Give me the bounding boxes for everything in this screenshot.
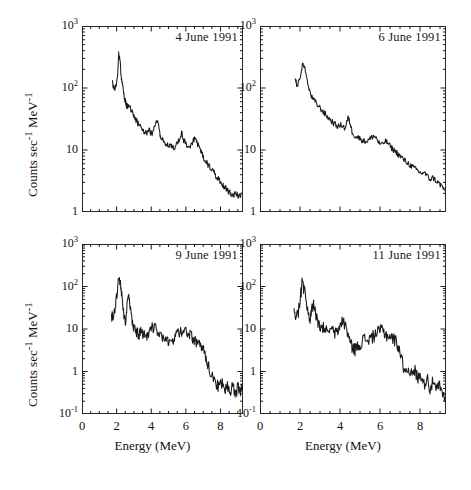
gamma-ray-spectra-figure: 4 June 1991110102103Counts sec-1 MeV-16 … — [0, 0, 471, 490]
spectrum-curve — [82, 244, 243, 414]
y-tick-label: 103 — [224, 18, 256, 33]
y-tick-label: 102 — [46, 80, 78, 95]
y-tick-label: 10 — [46, 142, 78, 157]
x-tick-label: 2 — [109, 419, 125, 434]
y-tick-label: 1 — [224, 364, 256, 379]
spectrum-curve — [260, 26, 446, 212]
x-tick-label: 2 — [292, 419, 308, 434]
panel-11-june: 11 June 1991 — [260, 244, 446, 414]
x-tick-label: 8 — [212, 419, 228, 434]
x-tick-label: 6 — [178, 419, 194, 434]
y-tick-label: 1 — [46, 364, 78, 379]
x-tick-label: 0 — [74, 419, 90, 434]
y-tick-label: 1 — [46, 204, 78, 219]
spectrum-curve — [82, 26, 243, 212]
x-tick-label: 8 — [412, 419, 428, 434]
panel-4-june: 4 June 1991 — [82, 26, 243, 212]
y-tick-label: 102 — [46, 279, 78, 294]
x-tick-label: 0 — [252, 419, 268, 434]
y-tick-label: 102 — [224, 279, 256, 294]
panel-9-june: 9 June 1991 — [82, 244, 243, 414]
x-tick-label: 4 — [143, 419, 159, 434]
y-tick-label: 1 — [224, 204, 256, 219]
spectrum-curve — [260, 244, 446, 414]
y-tick-label: 10 — [46, 321, 78, 336]
y-tick-label: 10 — [224, 142, 256, 157]
y-tick-label: 102 — [224, 80, 256, 95]
x-tick-label: 6 — [372, 419, 388, 434]
x-tick-label: 4 — [332, 419, 348, 434]
y-axis-label: Counts sec-1 MeV-1 — [22, 92, 41, 197]
y-tick-label: 10 — [224, 321, 256, 336]
x-axis-label: Energy (MeV) — [305, 438, 381, 454]
y-tick-label: 103 — [46, 18, 78, 33]
y-axis-label: Counts sec-1 MeV-1 — [22, 302, 41, 407]
y-tick-label: 103 — [46, 236, 78, 251]
panel-6-june: 6 June 1991 — [260, 26, 446, 212]
y-tick-label: 103 — [224, 236, 256, 251]
x-axis-label: Energy (MeV) — [115, 438, 191, 454]
